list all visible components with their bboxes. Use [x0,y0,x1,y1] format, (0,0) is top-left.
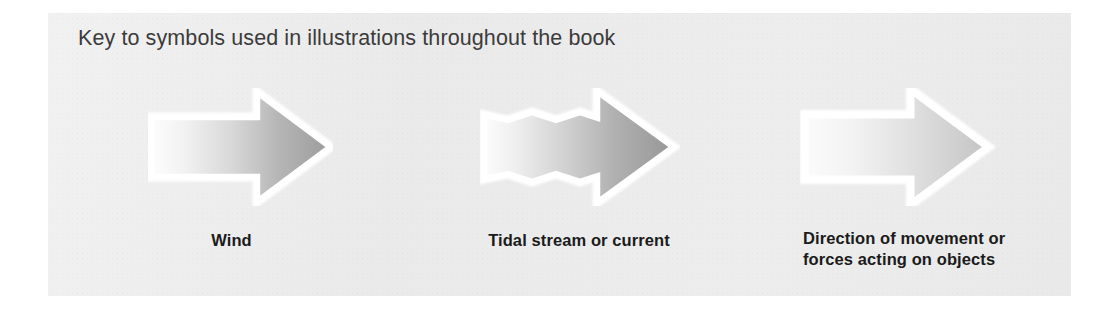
legend-label-direction: Direction of movement or forces acting o… [800,228,1050,270]
legend-item-wind: Wind [148,88,333,251]
straight-arrow-right-icon [148,88,333,206]
legend-item-tidal: Tidal stream or current [480,88,680,251]
tidal-symbol-art [480,88,680,206]
arrow-body [152,94,329,200]
straight-arrow-right-light-icon [800,88,1000,206]
page-title: Key to symbols used in illustrations thr… [78,26,615,51]
wind-symbol-art [148,88,333,206]
legend-figure: Key to symbols used in illustrations thr… [0,0,1113,320]
legend-item-direction: Direction of movement or forces acting o… [800,88,1050,270]
wavy-arrow-right-icon [480,88,680,206]
legend-label-direction-line-2: forces acting on objects [803,249,1050,270]
arrow-body [806,92,986,202]
legend-label-direction-line-1: Direction of movement or [803,228,1050,249]
direction-symbol-art [800,88,1050,206]
legend-label-wind: Wind [148,230,333,251]
legend-label-tidal: Tidal stream or current [480,230,680,251]
